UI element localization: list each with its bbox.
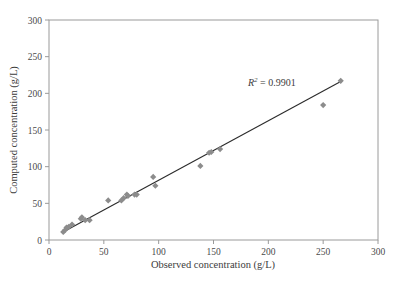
x-tick-label: 50 — [99, 247, 109, 257]
r-squared-symbol: R — [247, 77, 254, 88]
r-squared-annotation: R2 = 0.9901 — [247, 76, 296, 88]
data-point — [105, 197, 111, 203]
data-point — [320, 102, 326, 108]
y-tick-label: 300 — [28, 16, 43, 26]
regression-line — [63, 82, 340, 232]
x-axis-tick-labels: 050100150200250300 — [47, 247, 386, 257]
y-tick-label: 100 — [28, 162, 43, 172]
data-point — [197, 163, 203, 169]
y-tick-label: 200 — [28, 89, 43, 99]
x-axis-ticks — [49, 240, 378, 244]
x-tick-label: 200 — [261, 247, 276, 257]
y-tick-label: 150 — [28, 126, 43, 136]
x-tick-label: 250 — [316, 247, 331, 257]
data-point — [86, 217, 92, 223]
x-tick-label: 150 — [206, 247, 221, 257]
x-tick-label: 0 — [47, 247, 52, 257]
x-tick-label: 100 — [152, 247, 167, 257]
y-tick-label: 250 — [28, 52, 43, 62]
y-axis-ticks — [45, 20, 49, 240]
y-axis-tick-labels: 050100150200250300 — [28, 16, 43, 246]
r-squared-value: = 0.9901 — [258, 77, 296, 88]
plot-frame — [49, 20, 378, 240]
x-tick-label: 300 — [371, 247, 386, 257]
y-tick-label: 50 — [33, 199, 43, 209]
scatter-plot-svg: 050100150200250300 050100150200250300 Ob… — [0, 0, 402, 286]
chart-figure: 050100150200250300 050100150200250300 Ob… — [0, 0, 402, 286]
y-axis-title: Computed concentration (g/L) — [8, 66, 20, 194]
data-point — [217, 146, 223, 152]
x-axis-title: Observed concentration (g/L) — [151, 259, 276, 271]
y-tick-label: 0 — [37, 236, 42, 246]
data-point — [150, 174, 156, 180]
